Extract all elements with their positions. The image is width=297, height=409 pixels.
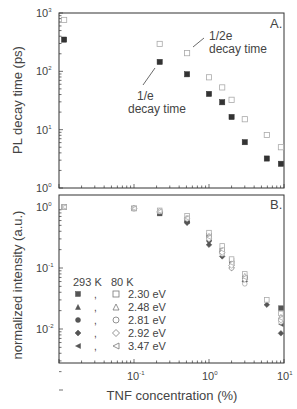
panel-a-frame [59,13,284,188]
square-marker-icon [157,59,162,64]
triangle-left-marker-icon [76,344,81,349]
square-marker-icon [220,100,225,105]
square-marker-icon [184,51,189,56]
square-marker-icon [229,97,234,102]
triangle-marker-icon [76,305,81,310]
panel-b-x-ticks [59,359,284,363]
annotation-1e-line1: 1/e [137,89,154,103]
diamond-marker-icon [75,330,81,336]
annotation-2e-line1: 1/2e [209,29,233,43]
panel-b-y-axis-label: normalized intensity (a.u.) [10,211,25,360]
diamond-marker-icon [278,331,284,337]
panel-a-data-points [62,17,284,166]
legend-entry: 2.30 eV [128,288,167,300]
panel-b-ytick-label: 100 [36,201,52,213]
square-marker-icon [278,161,283,166]
square-marker-icon [242,140,247,145]
panel-b: 100 10-1 10-2 10-1 100 101 TNF concentra… [10,195,293,403]
panel-a-ytick-label: 103 [36,7,52,19]
panel-a-ytick-label: 102 [36,65,52,77]
diamond-marker-icon [264,302,270,308]
legend: 293 K 80 K 2.30 eV 2.48 eV 2.81 eV 2.92 … [73,276,167,352]
square-marker-icon [184,72,189,77]
panel-a: 103 102 101 100 PL decay time (ps) A. 1/… [10,7,284,194]
legend-separator: , [94,289,97,300]
panel-b-x-axis-label: TNF concentration (%) [107,388,238,403]
legend-separator: , [94,315,97,326]
square-marker-icon [206,91,211,96]
legend-entry: 2.48 eV [128,301,167,313]
panel-a-y-axis-label: PL decay time (ps) [10,46,25,154]
legend-rows [75,291,120,349]
square-marker-icon [229,114,234,119]
square-marker-icon [279,306,284,311]
square-marker-icon [264,156,269,161]
panel-a-x-ticks [59,184,284,188]
legend-entry: 2.81 eV [128,314,167,326]
triangle-marker-icon [113,304,119,310]
panel-a-ytick-label: 101 [36,124,52,136]
annotation-arrow-1e [143,68,155,85]
annotation-2e-line2: decay time [209,42,267,56]
square-marker-icon [278,145,283,150]
legend-entry: 2.92 eV [128,327,167,339]
square-marker-icon [206,75,211,80]
square-marker-icon [265,298,270,303]
panel-a-ytick-label: 100 [36,182,52,194]
legend-header-80k: 80 K [111,276,134,288]
figure: 103 102 101 100 PL decay time (ps) A. 1/… [0,0,297,409]
legend-separator: , [94,328,97,339]
square-marker-icon [62,37,67,42]
square-marker-icon [242,117,247,122]
diamond-marker-icon [113,330,120,337]
square-marker-icon [264,132,269,137]
circle-marker-icon [113,317,119,323]
panel-b-xtick-label: 101 [277,370,293,382]
square-marker-icon [113,291,119,297]
annotation-arrow-2e [193,38,204,47]
square-marker-icon [220,85,225,90]
circle-marker-icon [76,318,81,323]
legend-separator: , [94,341,97,352]
panel-b-ytick-label: 10-1 [36,262,54,274]
square-marker-icon [62,17,67,22]
panel-b-xtick-label: 100 [202,370,218,382]
panel-b-label: B. [270,197,282,212]
triangle-left-marker-icon [113,343,119,349]
square-marker-icon [157,41,162,46]
legend-entry: 3.47 eV [128,340,167,352]
panel-a-label: A. [270,16,282,31]
legend-header-293k: 293 K [73,276,102,288]
diamond-marker-icon [206,242,212,248]
panel-b-ytick-label: 10-2 [36,323,54,335]
square-marker-icon [76,292,81,297]
panel-b-xtick-label: 10-1 [127,370,145,382]
annotation-1e-line2: decay time [128,102,186,116]
legend-separator: , [94,302,97,313]
